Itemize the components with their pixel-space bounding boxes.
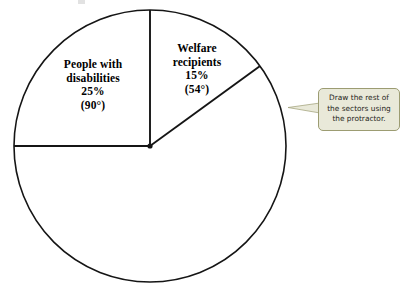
sector-label-degrees: (54°) bbox=[152, 83, 242, 97]
sector-label-percent: 15% bbox=[152, 69, 242, 83]
sector-label-degrees: (90°) bbox=[33, 99, 153, 113]
pie-center-point bbox=[147, 143, 152, 148]
callout-line2: the sectors using bbox=[323, 104, 395, 115]
callout-line3: the protractor. bbox=[323, 114, 395, 125]
sector-label-percent: 25% bbox=[33, 85, 153, 99]
sector-label-line2: recipients bbox=[152, 56, 242, 70]
callout-pointer-tail bbox=[288, 101, 320, 115]
callout-instruction-box: Draw the rest of the sectors using the p… bbox=[318, 88, 400, 131]
sector-label-line1: People with bbox=[33, 58, 153, 72]
sector-label-welfare-recipients: Welfare recipients 15% (54°) bbox=[152, 42, 242, 96]
callout-line1: Draw the rest of bbox=[323, 93, 395, 104]
sector-label-line1: Welfare bbox=[152, 42, 242, 56]
figure-canvas: People with disabilities 25% (90°) Welfa… bbox=[0, 0, 404, 292]
sector-label-line2: disabilities bbox=[33, 72, 153, 86]
sector-label-people-with-disabilities: People with disabilities 25% (90°) bbox=[33, 58, 153, 112]
